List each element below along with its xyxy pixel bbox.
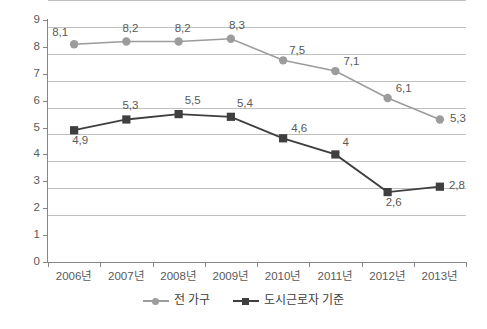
data-point-label: 7,1: [343, 55, 359, 67]
data-point-label: 5,4: [237, 97, 253, 109]
data-point-label: 5,3: [122, 99, 138, 111]
line-chart: 0123456789 2006년2007년2008년2009년2010년2011…: [0, 0, 487, 329]
data-point-label: 6,1: [396, 82, 412, 94]
data-point-square[interactable]: [436, 183, 444, 191]
data-point-square[interactable]: [227, 113, 235, 121]
data-point-circle[interactable]: [383, 94, 391, 102]
data-point-square[interactable]: [384, 188, 392, 196]
series-line: [74, 114, 440, 192]
circle-marker-icon: [143, 295, 169, 307]
data-point-circle[interactable]: [331, 67, 339, 75]
data-point-label: 4,9: [72, 134, 88, 146]
data-point-square[interactable]: [70, 126, 78, 134]
data-point-square[interactable]: [279, 134, 287, 142]
legend-label: 도시근로자 기준: [264, 294, 344, 307]
data-point-circle[interactable]: [174, 37, 182, 45]
data-point-label: 5,5: [185, 94, 201, 106]
data-point-label: 8,3: [229, 19, 245, 31]
data-point-label: 8,2: [175, 22, 191, 34]
data-point-circle[interactable]: [279, 56, 287, 64]
data-point-square[interactable]: [122, 115, 130, 123]
series-layer: [0, 0, 487, 329]
data-point-label: 4,6: [291, 122, 307, 134]
data-point-circle[interactable]: [436, 115, 444, 123]
legend-item-all-households[interactable]: 전 가구: [143, 294, 210, 307]
data-point-label: 8,1: [52, 26, 68, 38]
legend-label: 전 가구: [174, 294, 210, 307]
data-point-square[interactable]: [331, 150, 339, 158]
data-point-circle[interactable]: [70, 40, 78, 48]
data-point-label: 2,6: [386, 196, 402, 208]
data-point-label: 8,2: [122, 22, 138, 34]
square-marker-icon: [233, 295, 259, 307]
data-point-square[interactable]: [175, 110, 183, 118]
data-point-label: 7,5: [289, 44, 305, 56]
data-point-label: 2,8: [449, 179, 465, 191]
data-point-label: 4: [342, 136, 348, 148]
data-point-label: 5,3: [450, 112, 466, 124]
data-point-circle[interactable]: [227, 35, 235, 43]
legend-item-urban-worker[interactable]: 도시근로자 기준: [233, 294, 344, 307]
chart-legend: 전 가구 도시근로자 기준: [0, 294, 487, 307]
data-point-circle[interactable]: [122, 37, 130, 45]
